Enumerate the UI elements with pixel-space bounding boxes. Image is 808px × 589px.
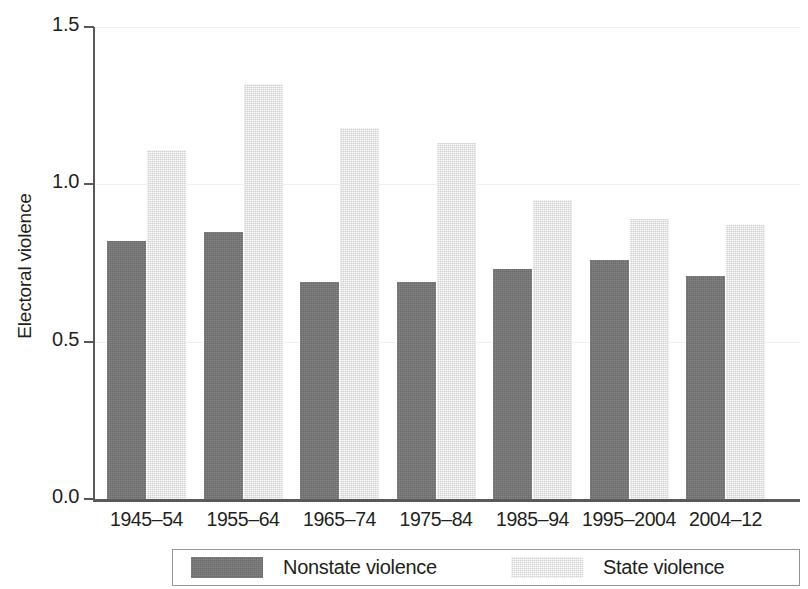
y-tick-mark [84, 341, 94, 343]
bar-state-violence-1995–2004 [630, 219, 669, 499]
legend-swatch-nonstate [191, 557, 263, 578]
y-tick-label: 1.0 [31, 170, 79, 193]
plot-area: 0.00.51.01.5 1945–541955–641965–741975–8… [93, 20, 800, 502]
bar-state-violence-1985–94 [533, 200, 572, 499]
bar-nonstate-violence-1945–54 [107, 241, 146, 499]
y-tick-mark [84, 183, 94, 185]
chart-legend: Nonstate violenceState violence [172, 549, 800, 586]
y-tick-mark [84, 498, 94, 500]
gridline-1.5 [95, 27, 800, 28]
bar-nonstate-violence-1955–64 [204, 232, 243, 499]
legend-entry-nonstate-violence: Nonstate violence [191, 550, 437, 585]
x-tick-label: 2004–12 [666, 508, 785, 531]
bar-nonstate-violence-1965–74 [300, 282, 339, 499]
y-tick-label: 1.5 [31, 13, 79, 36]
bar-nonstate-violence-2004–12 [686, 276, 725, 499]
bar-nonstate-violence-1995–2004 [590, 260, 629, 499]
bar-nonstate-violence-1975–84 [397, 282, 436, 499]
legend-label: State violence [603, 556, 724, 579]
bar-chart-figure: Electoral violence 0.00.51.01.5 1945–541… [0, 0, 808, 589]
bar-state-violence-1945–54 [147, 150, 186, 499]
bar-state-violence-2004–12 [726, 225, 765, 499]
legend-entry-state-violence: State violence [511, 550, 724, 585]
bar-nonstate-violence-1985–94 [493, 269, 532, 499]
bar-state-violence-1975–84 [437, 143, 476, 499]
legend-label: Nonstate violence [283, 556, 437, 579]
y-tick-mark [84, 26, 94, 28]
legend-swatch-state [511, 557, 583, 578]
bar-state-violence-1955–64 [244, 84, 283, 499]
bar-state-violence-1965–74 [340, 128, 379, 499]
y-tick-label: 0.0 [31, 485, 79, 508]
y-axis-line [93, 27, 95, 501]
x-axis-line [93, 499, 800, 502]
y-tick-label: 0.5 [31, 328, 79, 351]
